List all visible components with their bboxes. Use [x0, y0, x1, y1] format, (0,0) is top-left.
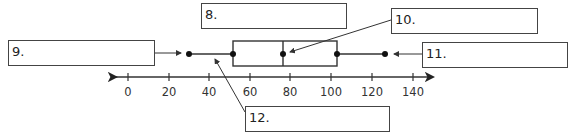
- tick-label-0: 0: [124, 85, 131, 99]
- tick-label-80: 80: [283, 85, 298, 99]
- answer-box-11[interactable]: 11.: [422, 42, 568, 68]
- tick-label-60: 60: [243, 85, 258, 99]
- maximum-point: [382, 51, 388, 57]
- answer-box-10[interactable]: 10.: [391, 8, 538, 34]
- answer-box-8[interactable]: 8.: [201, 3, 347, 29]
- tick-label-40: 40: [202, 85, 217, 99]
- tick-label-120: 120: [361, 85, 383, 99]
- answer-box-9[interactable]: 9.: [8, 40, 155, 66]
- tick-label-140: 140: [402, 85, 424, 99]
- q1-point: [230, 51, 236, 57]
- q3-point: [334, 51, 340, 57]
- number-line: [113, 73, 430, 81]
- median-point: [280, 51, 286, 57]
- tick-label-100: 100: [320, 85, 342, 99]
- answer-box-12[interactable]: 12.: [245, 106, 390, 132]
- minimum-point: [186, 51, 192, 57]
- arrow-12: [215, 59, 245, 112]
- tick-label-20: 20: [162, 85, 177, 99]
